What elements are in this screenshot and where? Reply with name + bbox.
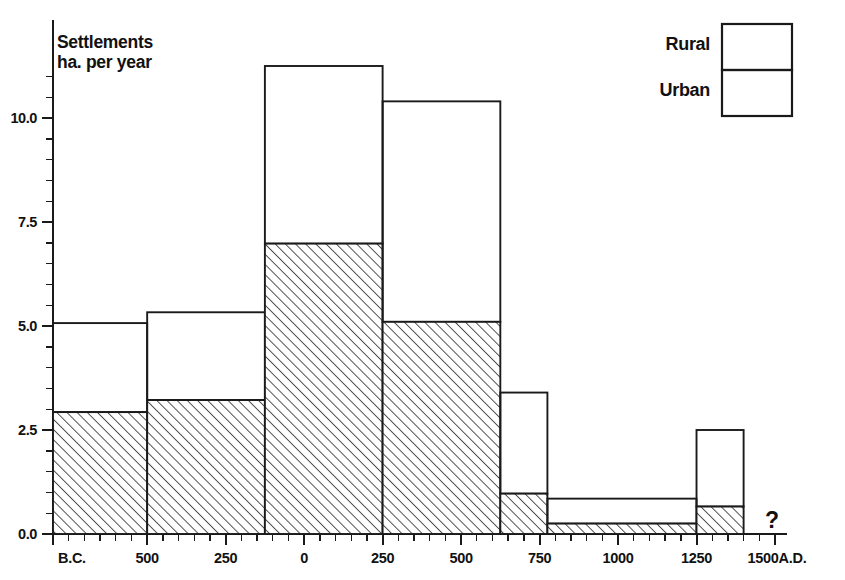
legend-swatch-urban: [722, 70, 792, 116]
y-tick-label: 2.5: [18, 422, 37, 438]
bar-segment-urban: [265, 244, 383, 534]
chart-container: 0.02.55.07.510.0B.C.50025002505007501000…: [0, 0, 845, 580]
bar-segment-rural: [547, 499, 696, 524]
y-tick-label: 0.0: [18, 526, 37, 542]
y-axis-title-line2: ha. per year: [57, 52, 152, 72]
x-tick-label: 250: [371, 550, 395, 566]
y-axis-title-line1: Settlements: [57, 32, 153, 52]
bar-group: [147, 312, 265, 534]
bars-group: [53, 66, 744, 534]
bar-segment-urban: [500, 494, 547, 534]
legend-label-rural: Rural: [665, 34, 710, 54]
x-tick-label: B.C.: [58, 550, 86, 566]
bar-segment-urban: [697, 507, 744, 534]
legend-label-urban: Urban: [659, 80, 710, 100]
y-tick-label: 7.5: [18, 214, 37, 230]
bar-segment-urban: [53, 412, 147, 534]
bar-segment-urban: [547, 524, 696, 534]
settlements-bar-chart: 0.02.55.07.510.0B.C.50025002505007501000…: [0, 0, 845, 580]
x-tick-label: 1000: [603, 550, 634, 566]
bar-segment-urban: [147, 400, 265, 534]
x-tick-label: 500: [136, 550, 160, 566]
x-tick-label: 0: [300, 550, 308, 566]
x-tick-label: 500: [449, 550, 473, 566]
x-tick-label: 250: [214, 550, 238, 566]
bar-segment-urban: [383, 322, 501, 534]
bar-group: [697, 430, 744, 534]
bar-group: [547, 499, 696, 534]
x-tick-label: 750: [528, 550, 552, 566]
bar-segment-rural: [53, 323, 147, 412]
bar-group: [383, 101, 501, 534]
bar-group: [265, 66, 383, 534]
bar-group: [53, 323, 147, 534]
bar-segment-rural: [265, 66, 383, 244]
y-tick-label: 5.0: [18, 318, 37, 334]
x-tick-label: 1500A.D.: [748, 550, 807, 566]
bar-segment-rural: [500, 393, 547, 494]
x-tick-label: 1250: [681, 550, 712, 566]
uncertainty-annotation: ?: [765, 507, 779, 533]
legend-swatch-rural: [722, 24, 792, 70]
legend: Rural Urban: [659, 24, 792, 116]
bar-segment-rural: [383, 101, 501, 321]
y-tick-label: 10.0: [10, 110, 37, 126]
bar-segment-rural: [147, 312, 265, 400]
bar-segment-rural: [697, 430, 744, 507]
bar-group: [500, 393, 547, 534]
